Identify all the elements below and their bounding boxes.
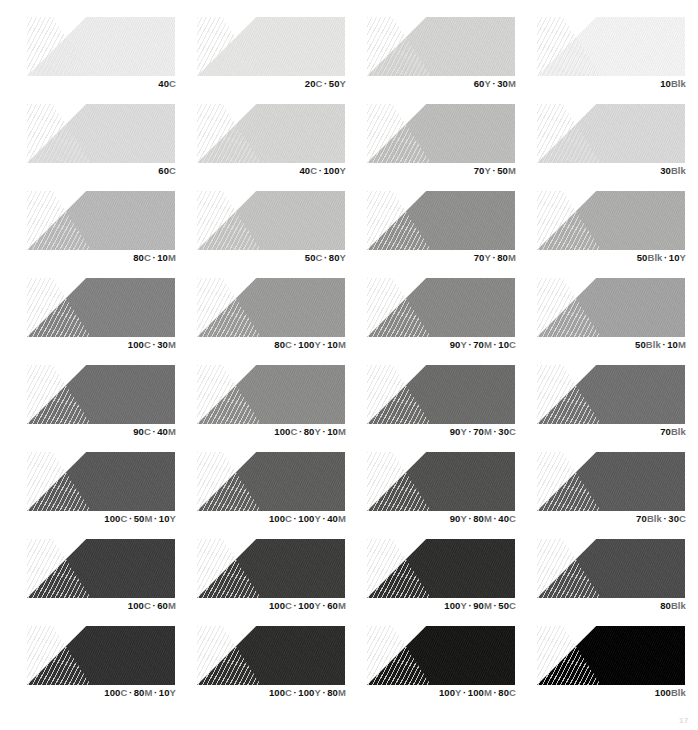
swatch-label-channel: Y <box>315 426 321 437</box>
swatch-label-value: 10 <box>660 78 671 89</box>
swatch-label-channel: Blk <box>671 600 686 611</box>
swatch-label-channel: M <box>484 600 492 611</box>
swatch-cell[interactable]: 90Y·70M·30C <box>348 360 516 447</box>
swatch-label-value: 100 <box>128 339 144 350</box>
swatch-cell[interactable]: 50Blk·10M <box>518 273 686 360</box>
swatch-cell[interactable]: 100C·50M·10Y <box>8 447 176 534</box>
page-number: 17 <box>679 716 689 725</box>
swatch-cell[interactable]: 90Y·70M·10C <box>348 273 516 360</box>
swatch-color-block <box>27 104 175 163</box>
swatch-label-channel: C <box>509 426 516 437</box>
swatch-cell[interactable]: 90C·40M <box>8 360 176 447</box>
swatch-label: 60C <box>8 165 176 176</box>
swatch-label-channel: Y <box>460 600 466 611</box>
swatch-color-block <box>27 17 175 76</box>
swatch-cell[interactable]: 70Y·80M <box>348 186 516 273</box>
swatch-sheet: 40C20C·50Y60Y·30M10Blk60C40C·100Y70Y·50M… <box>0 0 698 730</box>
swatch-label-value: 90 <box>473 600 484 611</box>
swatch-label-value: 100 <box>298 687 314 698</box>
swatch-cell[interactable]: 80Blk <box>518 534 686 621</box>
swatch-cell[interactable]: 100C·60M <box>8 534 176 621</box>
swatch-cell[interactable]: 60Y·30M <box>348 12 516 99</box>
swatch-cell[interactable]: 80C·10M <box>8 186 176 273</box>
swatch-cell[interactable]: 60C <box>8 99 176 186</box>
swatch-label-channel: M <box>484 426 492 437</box>
swatch-label-channel: M <box>168 426 176 437</box>
swatch-label: 80Blk <box>518 600 686 611</box>
swatch-cell[interactable]: 90Y·80M·40C <box>348 447 516 534</box>
swatch-label-value: 30 <box>668 513 679 524</box>
swatch-color-block <box>537 278 685 337</box>
swatch-label-channel: Blk <box>671 687 686 698</box>
swatch-label-value: 80 <box>304 426 315 437</box>
swatch-label-channel: Y <box>460 426 466 437</box>
swatch-label-value: 100 <box>298 600 314 611</box>
swatch-label: 100C·50M·10Y <box>8 513 176 524</box>
swatch-label: 70Y·50M <box>348 165 516 176</box>
swatch-label-channel: Y <box>485 252 491 263</box>
swatch-label-channel: C <box>316 252 323 263</box>
swatch-label-value: 10 <box>669 252 680 263</box>
swatch-label-channel: Y <box>340 252 346 263</box>
swatch-color-block <box>27 365 175 424</box>
swatch-label-channel: C <box>316 78 323 89</box>
swatch-cell[interactable]: 100C·100Y·80M <box>178 621 346 708</box>
swatch-label-value: 100 <box>323 165 339 176</box>
swatch-label: 100C·80M·10Y <box>8 687 176 698</box>
swatch-color-block <box>197 278 345 337</box>
swatch-label: 50Blk·10M <box>518 339 686 350</box>
swatch-cell[interactable]: 100C·100Y·40M <box>178 447 346 534</box>
swatch-label-value: 40 <box>157 426 168 437</box>
swatch-cell[interactable]: 100C·100Y·60M <box>178 534 346 621</box>
swatch-label-value: 70 <box>474 252 485 263</box>
swatch-label-value: 80 <box>134 687 145 698</box>
swatch-label-channel: Blk <box>671 426 686 437</box>
swatch-label-value: 30 <box>498 426 509 437</box>
swatch-label-channel: M <box>678 339 686 350</box>
swatch-cell[interactable]: 40C·100Y <box>178 99 346 186</box>
swatch-label-value: 60 <box>158 165 169 176</box>
swatch-label-value: 50 <box>329 78 340 89</box>
swatch-color-block <box>197 626 345 685</box>
swatch-label-value: 100 <box>104 513 120 524</box>
swatch-label-channel: M <box>484 687 492 698</box>
swatch-label-value: 80 <box>473 513 484 524</box>
swatch-cell[interactable]: 100C·30M <box>8 273 176 360</box>
swatch-cell[interactable]: 70Blk <box>518 360 686 447</box>
swatch-cell[interactable]: 40C <box>8 12 176 99</box>
swatch-cell[interactable]: 50Blk·10Y <box>518 186 686 273</box>
swatch-cell[interactable]: 100C·80Y·10M <box>178 360 346 447</box>
swatch-cell[interactable]: 100Blk <box>518 621 686 708</box>
swatch-cell[interactable]: 70Y·50M <box>348 99 516 186</box>
swatch-label-value: 50 <box>497 165 508 176</box>
swatch-color-block <box>197 365 345 424</box>
swatch-cell[interactable]: 80C·100Y·10M <box>178 273 346 360</box>
swatch-label-channel: Y <box>315 513 321 524</box>
swatch-cell[interactable]: 30Blk <box>518 99 686 186</box>
swatch-label-value: 100 <box>269 687 285 698</box>
swatch-label-value: 70 <box>473 426 484 437</box>
swatch-cell[interactable]: 70Blk·30C <box>518 447 686 534</box>
swatch-label-value: 100 <box>298 339 314 350</box>
swatch-color-block <box>367 539 515 598</box>
swatch-cell[interactable]: 100Y·100M·80C <box>348 621 516 708</box>
swatch-label-channel: M <box>338 426 346 437</box>
swatch-cell[interactable]: 20C·50Y <box>178 12 346 99</box>
swatch-cell[interactable]: 100C·80M·10Y <box>8 621 176 708</box>
swatch-label-value: 10 <box>157 252 168 263</box>
swatch-color-block <box>367 191 515 250</box>
swatch-color-block <box>197 452 345 511</box>
swatch-cell[interactable]: 50C·80Y <box>178 186 346 273</box>
swatch-label-value: 90 <box>450 513 461 524</box>
swatch-cell[interactable]: 10Blk <box>518 12 686 99</box>
swatch-cell[interactable]: 100Y·90M·50C <box>348 534 516 621</box>
swatch-label-value: 40 <box>327 513 338 524</box>
swatch-color-block <box>537 104 685 163</box>
swatch-label-channel: C <box>509 687 516 698</box>
swatch-label-value: 100 <box>298 513 314 524</box>
swatch-label-channel: C <box>679 513 686 524</box>
swatch-color-block <box>537 17 685 76</box>
swatch-label-channel: C <box>509 513 516 524</box>
swatch-label: 40C·100Y <box>178 165 346 176</box>
swatch-label-value: 60 <box>327 600 338 611</box>
